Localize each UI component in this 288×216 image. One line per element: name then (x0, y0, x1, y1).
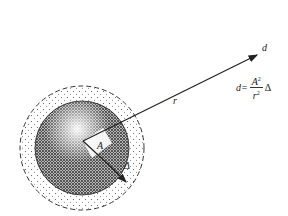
formula-numerator: A2 (250, 74, 263, 88)
numerator-exp: 2 (258, 76, 261, 82)
diagram-canvas (0, 0, 288, 216)
label-delta: Δ (124, 160, 130, 171)
label-d: d (262, 42, 267, 53)
label-A: A (97, 140, 103, 151)
formula-lhs: d= (236, 82, 248, 93)
formula-fraction: A2 r2 (250, 74, 263, 102)
denominator-exp: 2 (257, 90, 260, 96)
formula-denominator: r2 (253, 88, 260, 101)
formula-trailing: Δ (265, 82, 271, 93)
label-r: r (173, 95, 177, 106)
dense-sphere (35, 101, 129, 195)
formula: d= A2 r2 Δ (236, 74, 271, 102)
